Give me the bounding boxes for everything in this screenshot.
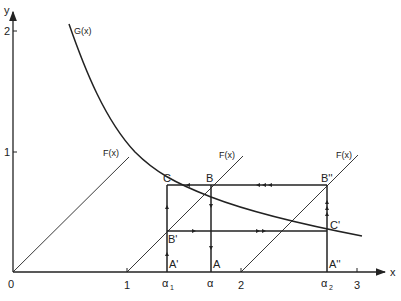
y-axis-label: y: [4, 4, 10, 16]
x-axis-label: x: [390, 266, 396, 278]
f-line-1-label: F(x): [219, 150, 235, 160]
y-tick-label-2: 2: [4, 25, 10, 37]
g-curve-label: G(x): [74, 26, 92, 36]
point-a-label: A: [213, 258, 221, 270]
svg-text:α: α: [162, 277, 169, 289]
point-c-prime-label: C': [330, 219, 340, 231]
alpha1-marker: α 1: [162, 277, 174, 291]
point-a-double-prime-label: A'': [329, 258, 341, 270]
x-tick-label-3: 3: [354, 279, 360, 291]
direction-arrows: [165, 183, 329, 256]
y-tick-label-1: 1: [4, 146, 10, 158]
svg-text:α: α: [207, 277, 214, 289]
diagram-canvas: y x 0 2 1 1 2 3 α 1 α α 2 G(x) F(x) F(x)…: [0, 0, 401, 301]
svg-text:2: 2: [329, 284, 333, 291]
axes: [13, 12, 385, 272]
point-b-double-prime-label: B'': [321, 172, 333, 184]
f-line-2: [241, 155, 358, 272]
f-line-2-label: F(x): [336, 150, 352, 160]
point-b-prime-label: B': [168, 233, 177, 245]
alpha-marker: α: [207, 277, 214, 289]
x-tick-label-1: 1: [124, 279, 130, 291]
origin-label: 0: [8, 278, 14, 290]
g-curve: [69, 24, 362, 236]
point-c-label: C: [163, 172, 171, 184]
f-line-1: [127, 156, 243, 272]
f-line-0-label: F(x): [103, 148, 119, 158]
x-tick-label-2: 2: [238, 279, 244, 291]
svg-text:1: 1: [170, 284, 174, 291]
svg-text:α: α: [321, 277, 328, 289]
f-line-0: [13, 157, 129, 272]
point-a-prime-label: A': [169, 258, 178, 270]
alpha2-marker: α 2: [321, 277, 333, 291]
trajectory: [167, 185, 327, 272]
point-b-label: B: [206, 172, 213, 184]
